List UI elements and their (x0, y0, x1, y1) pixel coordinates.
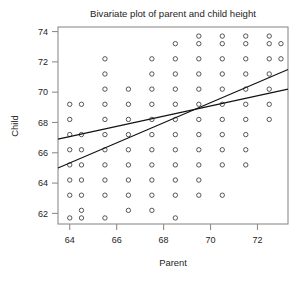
x-tick-label: 66 (112, 235, 122, 245)
chart-title: Bivariate plot of parent and child heigh… (90, 8, 256, 19)
y-tick-label: 70 (38, 87, 48, 97)
chart-figure: Bivariate plot of parent and child heigh… (0, 0, 305, 281)
y-tick-label: 62 (38, 209, 48, 219)
x-tick-label: 72 (252, 235, 262, 245)
y-tick-label: 66 (38, 148, 48, 158)
x-tick-label: 68 (159, 235, 169, 245)
y-tick-label: 64 (38, 178, 48, 188)
x-tick-label: 64 (65, 235, 75, 245)
y-tick-label: 68 (38, 118, 48, 128)
y-tick-label: 74 (38, 27, 48, 37)
y-axis-title: Child (9, 115, 20, 136)
x-tick-label: 70 (206, 235, 216, 245)
y-tick-label: 72 (38, 57, 48, 67)
bivariate-scatter-plot: Bivariate plot of parent and child heigh… (0, 0, 305, 281)
x-axis-title: Parent (159, 257, 187, 268)
